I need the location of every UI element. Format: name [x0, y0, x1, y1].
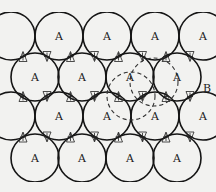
sphere-a — [179, 12, 216, 60]
interstitial-sites — [19, 52, 194, 143]
sphere-label-a: A — [198, 30, 208, 43]
sphere-layer-b-dashed — [107, 58, 178, 120]
sphere-label-a: A — [150, 30, 160, 43]
sphere-label-a: A — [172, 71, 182, 84]
sphere-label-a: A — [77, 71, 87, 84]
sphere-label-a: A — [150, 110, 160, 123]
sphere-label-a: A — [198, 110, 208, 123]
sphere-label-a: A — [54, 110, 64, 123]
sphere-label-a: A — [125, 71, 135, 84]
sphere-label-a: A — [54, 30, 64, 43]
sphere-label-a: A — [125, 152, 135, 165]
sphere-label-a: A — [77, 152, 87, 165]
sphere-label-a: A — [30, 152, 40, 165]
sphere-label-a: A — [172, 152, 182, 165]
sphere-label-a: A — [102, 30, 112, 43]
close-packing-diagram: AAAAAAAAAAAAAAAA B — [0, 0, 216, 192]
side-label-b: B — [203, 82, 211, 95]
sphere-a — [0, 92, 35, 140]
sphere-label-a: A — [30, 71, 40, 84]
sphere-label-a: A — [102, 110, 112, 123]
